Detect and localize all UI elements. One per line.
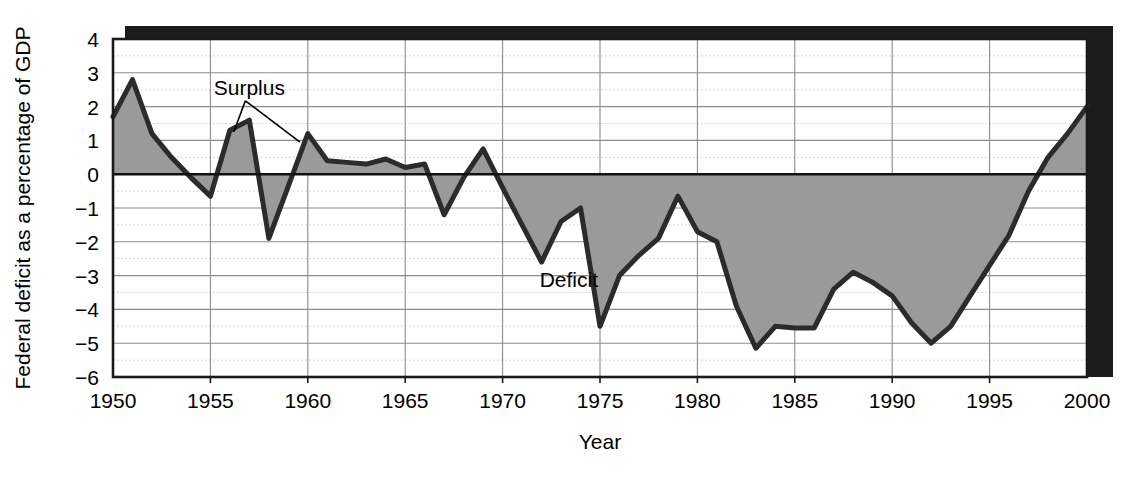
x-tick-label: 2000 bbox=[1064, 389, 1111, 412]
x-tick-label: 1970 bbox=[479, 389, 526, 412]
x-axis-tick-labels: 1950195519601965197019751980198519901995… bbox=[90, 389, 1111, 412]
y-tick-label: −4 bbox=[75, 298, 99, 321]
x-axis-title: Year bbox=[579, 430, 621, 453]
x-tick-label: 1980 bbox=[674, 389, 721, 412]
x-tick-label: 1985 bbox=[771, 389, 818, 412]
y-tick-label: −6 bbox=[75, 366, 99, 389]
y-tick-label: −1 bbox=[75, 197, 99, 220]
y-tick-label: −3 bbox=[75, 265, 99, 288]
x-tick-label: 1950 bbox=[90, 389, 137, 412]
y-tick-label: 3 bbox=[87, 62, 99, 85]
x-tick-label: 1975 bbox=[577, 389, 624, 412]
deficit-gdp-area-chart: 1950195519601965197019751980198519901995… bbox=[0, 0, 1145, 481]
y-tick-label: −2 bbox=[75, 231, 99, 254]
y-tick-label: −5 bbox=[75, 332, 99, 355]
y-tick-label: 4 bbox=[87, 28, 99, 51]
chart-figure: 1950195519601965197019751980198519901995… bbox=[0, 0, 1145, 481]
annotation-surplus: Surplus bbox=[214, 76, 285, 99]
y-tick-label: 1 bbox=[87, 129, 99, 152]
x-tick-label: 1990 bbox=[869, 389, 916, 412]
x-tick-label: 1960 bbox=[284, 389, 331, 412]
x-tick-label: 1995 bbox=[966, 389, 1013, 412]
y-tick-label: 0 bbox=[87, 163, 99, 186]
annotation-deficit: Deficit bbox=[540, 268, 599, 291]
x-tick-label: 1955 bbox=[187, 389, 234, 412]
y-tick-label: 2 bbox=[87, 96, 99, 119]
y-axis-title: Federal deficit as a percentage of GDP bbox=[11, 26, 34, 389]
x-tick-label: 1965 bbox=[382, 389, 429, 412]
y-axis-tick-labels: 43210−1−2−3−4−5−6 bbox=[75, 28, 99, 389]
